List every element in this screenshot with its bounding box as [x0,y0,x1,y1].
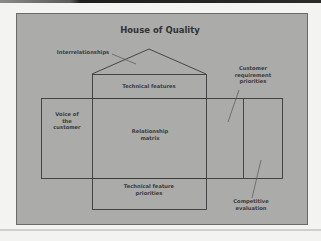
customer-priorities-arrow [228,90,239,122]
label-interrelationships: Interrelationships [48,49,118,56]
label-technical-features: Technical features [100,83,198,90]
label-competitive-evaluation: Competitive evaluation [220,198,282,211]
label-technical-feature-priorities: Technical feature priorities [100,183,198,196]
label-relationship-matrix: Relationship matrix [110,128,190,141]
diagram-title: House of Quality [100,25,220,35]
label-voice-of-customer: Voice of the customer [44,111,90,131]
competitive-evaluation-arrow [252,160,261,198]
label-customer-requirement-priorities: Customer requirement priorities [222,65,284,85]
